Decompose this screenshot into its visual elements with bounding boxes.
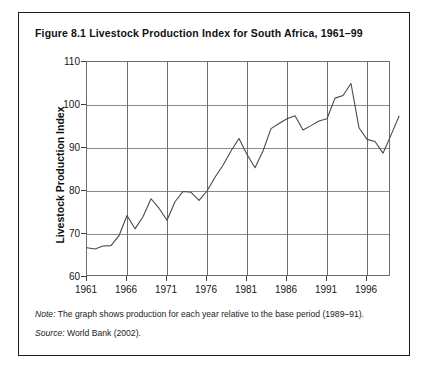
y-tick-label-70: 70 xyxy=(36,228,80,239)
source-text: World Bank (2002). xyxy=(65,328,141,338)
note-row: Note: The graph shows production for eac… xyxy=(35,309,395,319)
livestock-index-line xyxy=(87,84,399,250)
figure-title: Figure 8.1 Livestock Production Index fo… xyxy=(35,27,363,39)
x-tick-label-1981: 1981 xyxy=(235,284,257,295)
y-tick-label-90: 90 xyxy=(36,142,80,153)
y-tick-label-80: 80 xyxy=(36,185,80,196)
figure-notes: Note: The graph shows production for eac… xyxy=(35,309,395,347)
y-tick-label-110: 110 xyxy=(36,56,80,67)
x-tick-label-1991: 1991 xyxy=(315,284,337,295)
note-label: Note: xyxy=(35,309,56,319)
x-tick-label-1971: 1971 xyxy=(155,284,177,295)
y-tick-label-100: 100 xyxy=(36,99,80,110)
x-tick-label-1966: 1966 xyxy=(115,284,137,295)
x-tick-label-1996: 1996 xyxy=(355,284,377,295)
figure-container: Figure 8.1 Livestock Production Index fo… xyxy=(18,12,410,356)
note-text: The graph shows production for each year… xyxy=(56,309,364,319)
source-label: Source: xyxy=(35,328,65,338)
y-tick-label-60: 60 xyxy=(36,271,80,282)
source-row: Source: World Bank (2002). xyxy=(35,328,395,338)
x-tick-label-1961: 1961 xyxy=(75,284,97,295)
x-tick-label-1976: 1976 xyxy=(195,284,217,295)
x-tick-label-1986: 1986 xyxy=(275,284,297,295)
line-series-chart xyxy=(87,62,391,277)
chart-region: Livestock Production Index 6070809010011… xyxy=(19,49,411,301)
plot-area xyxy=(86,61,390,276)
